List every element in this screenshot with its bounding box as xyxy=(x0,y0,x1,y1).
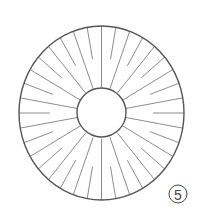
spoke-long xyxy=(48,46,85,93)
disc-diagram: 5 xyxy=(0,0,201,212)
spoke-short xyxy=(87,167,92,199)
spoke-long xyxy=(126,98,183,109)
spoke-short xyxy=(38,148,62,169)
spoke-long xyxy=(30,70,80,101)
spoke-long xyxy=(73,31,93,88)
spoke-long xyxy=(110,31,130,88)
figure-number: 5 xyxy=(174,187,182,203)
figure-number-badge: 5 xyxy=(169,185,187,203)
spoke-long xyxy=(73,137,93,194)
spoke-short xyxy=(110,27,115,59)
spoke-long xyxy=(123,70,173,101)
spoke-long xyxy=(30,126,80,157)
spoke-short xyxy=(110,167,115,199)
spoke-short xyxy=(24,83,53,94)
spoke-short xyxy=(150,83,179,94)
spoke-short xyxy=(60,38,75,66)
spoke-long xyxy=(20,117,77,128)
spoke-long xyxy=(123,126,173,157)
spoke-long xyxy=(117,46,154,93)
spoke-long xyxy=(20,98,77,109)
spoke-short xyxy=(141,148,165,169)
spoke-short xyxy=(141,57,165,78)
spoke-long xyxy=(110,137,130,194)
spoke-long xyxy=(126,117,183,128)
spoke-short xyxy=(24,132,53,143)
inner-ring xyxy=(77,88,126,137)
spoke-short xyxy=(87,27,92,59)
spoke-short xyxy=(127,160,142,188)
spoke-long xyxy=(117,133,154,180)
spoke-short xyxy=(127,38,142,66)
spoke-short xyxy=(150,132,179,143)
spoke-long xyxy=(48,133,85,180)
spoke-short xyxy=(60,160,75,188)
spoke-short xyxy=(38,57,62,78)
